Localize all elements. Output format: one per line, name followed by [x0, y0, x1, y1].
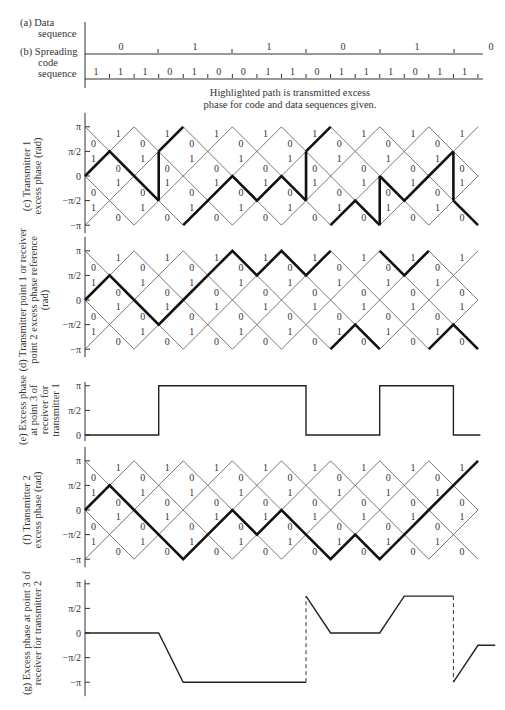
branch-bit: 1 — [189, 326, 194, 337]
branch-bit: 0 — [140, 138, 145, 149]
branch-bit: 0 — [361, 287, 366, 298]
y-tick-label: π — [76, 380, 81, 391]
branch-bit: 0 — [165, 497, 170, 508]
phase-waveform — [453, 645, 495, 682]
branch-bit: 1 — [459, 462, 464, 473]
branch-bit: 0 — [361, 163, 366, 174]
branch-bit: 1 — [337, 277, 342, 288]
branch-bit: 0 — [263, 497, 268, 508]
branch-bit: 0 — [140, 472, 145, 483]
svg-text:at point 3 of: at point 3 of — [28, 384, 39, 436]
branch-bit: 1 — [312, 511, 317, 522]
panel-label: (e) Excess phaseat point 3 ofreceiver fo… — [17, 375, 61, 445]
svg-text:receiver for: receiver for — [39, 385, 50, 434]
branch-bit: 1 — [288, 326, 293, 337]
code-bit: 1 — [265, 66, 270, 77]
branch-bit: 0 — [238, 138, 243, 149]
branch-bit: 1 — [361, 511, 366, 522]
branch-bit: 1 — [410, 252, 415, 263]
branch-bit: 0 — [337, 521, 342, 532]
branch-bit: 1 — [435, 326, 440, 337]
y-tick-label: π — [76, 455, 81, 466]
branch-bit: 1 — [288, 487, 293, 498]
code-bit: 1 — [118, 66, 123, 77]
branch-bit: 1 — [140, 277, 145, 288]
branch-bit: 1 — [140, 487, 145, 498]
y-tick-label: π/2 — [68, 146, 81, 157]
y-tick-label: π/2 — [68, 270, 81, 281]
branch-bit: 1 — [361, 252, 366, 263]
branch-bit: 0 — [337, 262, 342, 273]
svg-text:(rad): (rad) — [39, 289, 51, 310]
svg-text:transmitter 1: transmitter 1 — [50, 383, 61, 436]
branch-bit: 1 — [361, 128, 366, 139]
branch-bit: 0 — [165, 163, 170, 174]
branch-bit: 1 — [459, 511, 464, 522]
branch-bit: 0 — [410, 336, 415, 347]
label-spreading-code: code — [38, 57, 58, 68]
branch-bit: 1 — [459, 252, 464, 263]
branch-bit: 1 — [435, 536, 440, 547]
branch-bit: 1 — [263, 252, 268, 263]
branch-bit: 1 — [238, 536, 243, 547]
data-bit: 1 — [267, 41, 272, 52]
branch-bit: 1 — [91, 202, 96, 213]
branch-bit: 0 — [386, 311, 391, 322]
branch-bit: 0 — [435, 187, 440, 198]
y-tick-label: π/2 — [68, 603, 81, 614]
branch-bit: 0 — [263, 336, 268, 347]
branch-bit: 0 — [189, 262, 194, 273]
branch-bit: 1 — [238, 202, 243, 213]
y-tick-label: 0 — [76, 430, 81, 441]
branch-bit: 1 — [386, 487, 391, 498]
branch-bit: 1 — [165, 511, 170, 522]
branch-bit: 1 — [189, 536, 194, 547]
y-tick-label: −π — [70, 220, 81, 231]
branch-bit: 0 — [238, 472, 243, 483]
panel-d-reference: ππ/20−π/2−π11001010110010101100101011001… — [17, 228, 478, 372]
branch-bit: 1 — [189, 277, 194, 288]
branch-bit: 0 — [435, 311, 440, 322]
data-bit: 0 — [341, 41, 346, 52]
branch-bit: 0 — [165, 546, 170, 557]
branch-bit: 0 — [91, 472, 96, 483]
branch-bit: 0 — [140, 262, 145, 273]
highlighted-path — [183, 176, 306, 225]
code-bit: 1 — [388, 66, 393, 77]
y-tick-label: π — [76, 245, 81, 256]
branch-bit: 0 — [459, 287, 464, 298]
branch-bit: 0 — [459, 212, 464, 223]
svg-text:excess phase (rad): excess phase (rad) — [32, 471, 44, 548]
branch-bit: 1 — [288, 153, 293, 164]
branch-bit: 1 — [435, 277, 440, 288]
branch-bit: 0 — [312, 546, 317, 557]
branch-bit: 0 — [165, 336, 170, 347]
branch-bit: 1 — [91, 487, 96, 498]
branch-bit: 1 — [189, 153, 194, 164]
branch-bit: 1 — [312, 462, 317, 473]
step-waveform — [85, 386, 480, 435]
branch-bit: 1 — [288, 202, 293, 213]
branch-bit: 1 — [410, 177, 415, 188]
data-bit: 1 — [415, 41, 420, 52]
branch-bit: 1 — [435, 202, 440, 213]
branch-bit: 0 — [140, 521, 145, 532]
branch-bit: 0 — [214, 287, 219, 298]
branch-bit: 1 — [410, 511, 415, 522]
branch-bit: 1 — [386, 536, 391, 547]
label-data-sequence: sequence — [38, 28, 77, 39]
branch-bit: 0 — [91, 262, 96, 273]
y-tick-label: 0 — [76, 171, 81, 182]
branch-bit: 0 — [361, 336, 366, 347]
branch-bit: 1 — [91, 277, 96, 288]
branch-bit: 0 — [116, 212, 121, 223]
branch-bit: 1 — [312, 177, 317, 188]
branch-bit: 0 — [459, 497, 464, 508]
y-tick-label: −π — [70, 344, 81, 355]
code-bit: 1 — [143, 66, 148, 77]
y-tick-label: π/2 — [68, 405, 81, 416]
branch-bit: 0 — [116, 336, 121, 347]
branch-bit: 0 — [288, 187, 293, 198]
branch-bit: 0 — [189, 138, 194, 149]
branch-bit: 0 — [263, 163, 268, 174]
